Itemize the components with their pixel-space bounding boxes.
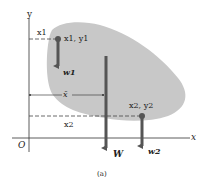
W-label: W bbox=[113, 149, 124, 159]
w2-label: w2 bbox=[148, 146, 161, 156]
point-1-label: x1, y1 bbox=[64, 34, 88, 43]
xbar-dim-end-right bbox=[102, 94, 104, 96]
xbar-dim-end-left bbox=[29, 94, 31, 96]
xbar-label: x̄ bbox=[63, 90, 68, 99]
origin-label: O bbox=[18, 140, 26, 150]
point-2-label: x2, y2 bbox=[129, 101, 153, 110]
w1-label: w1 bbox=[63, 67, 75, 77]
x-axis-label: x bbox=[191, 132, 196, 142]
centroid-diagram: y x O x1 x1, y1 w1 W x̄ x2 x2, y2 w2 (a) bbox=[0, 0, 204, 183]
x1-label: x1 bbox=[37, 28, 47, 37]
x2-label: x2 bbox=[64, 120, 74, 129]
y-axis-label: y bbox=[26, 9, 33, 19]
figure-caption: (a) bbox=[97, 170, 107, 178]
